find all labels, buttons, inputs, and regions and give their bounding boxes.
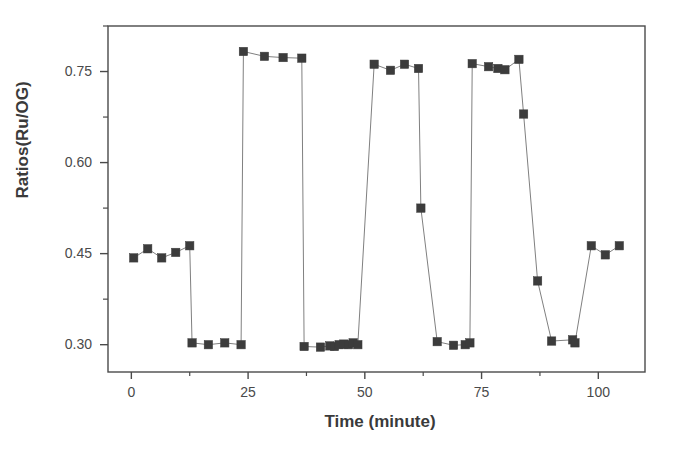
data-point xyxy=(386,66,394,74)
data-point xyxy=(237,340,245,348)
data-point xyxy=(468,59,476,67)
data-point xyxy=(449,341,457,349)
data-point xyxy=(484,62,492,70)
y-tick-label: 0.45 xyxy=(44,245,92,261)
x-tick-label: 0 xyxy=(111,384,151,400)
data-point xyxy=(188,339,196,347)
data-point xyxy=(515,55,523,63)
y-tick-label: 0.60 xyxy=(44,154,92,170)
data-point xyxy=(571,339,579,347)
data-point xyxy=(143,245,151,253)
data-point xyxy=(354,340,362,348)
data-point xyxy=(172,248,180,256)
series-markers xyxy=(129,47,623,351)
data-point xyxy=(587,242,595,250)
data-point xyxy=(279,53,287,61)
data-point xyxy=(316,343,324,351)
plot-frame xyxy=(108,26,645,372)
data-point xyxy=(466,339,474,347)
data-point xyxy=(601,251,609,259)
data-point xyxy=(129,254,137,262)
data-point xyxy=(433,337,441,345)
data-point xyxy=(519,110,527,118)
x-axis-label: Time (minute) xyxy=(180,412,580,432)
data-point xyxy=(400,60,408,68)
data-point xyxy=(239,47,247,55)
x-tick-label: 75 xyxy=(462,384,502,400)
data-point xyxy=(186,242,194,250)
data-point xyxy=(501,66,509,74)
x-tick-label: 50 xyxy=(345,384,385,400)
data-point xyxy=(260,52,268,60)
data-point xyxy=(417,204,425,212)
series-line xyxy=(134,51,620,347)
y-tick-label: 0.75 xyxy=(44,63,92,79)
y-axis-label: Ratios(Ru/OG) xyxy=(13,55,33,225)
y-tick-label: 0.30 xyxy=(44,336,92,352)
data-point xyxy=(533,277,541,285)
chart-figure: Ratios(Ru/OG) Time (minute) 02550751000.… xyxy=(0,0,680,451)
x-tick-label: 100 xyxy=(578,384,618,400)
data-point xyxy=(158,254,166,262)
data-point xyxy=(300,342,308,350)
data-point xyxy=(615,242,623,250)
data-point xyxy=(221,339,229,347)
x-tick-label: 25 xyxy=(228,384,268,400)
data-point xyxy=(547,337,555,345)
data-point xyxy=(414,64,422,72)
data-point xyxy=(298,54,306,62)
data-point xyxy=(370,60,378,68)
data-point xyxy=(204,340,212,348)
